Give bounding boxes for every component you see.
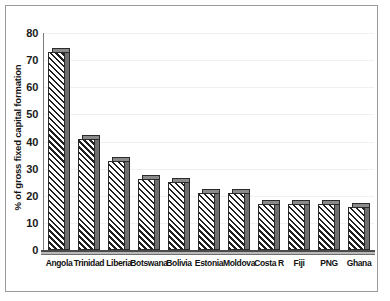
x-axis-tick-label: Ghana <box>338 258 380 268</box>
y-axis-title: % of gross fixed capital formation <box>12 43 23 233</box>
bar-front-face <box>348 207 365 250</box>
bar-top-face <box>232 189 250 194</box>
bar-slot <box>228 33 250 250</box>
bar-side-face <box>95 139 100 250</box>
bar-front-face <box>48 52 65 250</box>
bar[interactable] <box>228 189 250 250</box>
bar-front-face <box>258 204 275 250</box>
bar-slot <box>348 33 370 250</box>
bar-side-face <box>185 182 190 250</box>
bar[interactable] <box>168 178 190 250</box>
bar-side-face <box>365 207 370 250</box>
bar[interactable] <box>138 175 160 250</box>
bar[interactable] <box>78 135 100 250</box>
bar-side-face <box>335 204 340 250</box>
bar-top-face <box>202 189 220 194</box>
bar-top-face <box>112 157 130 162</box>
y-axis-tick-label: 0 <box>12 245 38 256</box>
bar-front-face <box>138 179 155 250</box>
bar-front-face <box>228 193 245 250</box>
bar-slot <box>168 33 190 250</box>
bar-side-face <box>305 204 310 250</box>
bar-front-face <box>78 139 95 250</box>
x-axis-base-plinth <box>41 252 375 255</box>
bar-slot <box>288 33 310 250</box>
bar[interactable] <box>258 200 280 250</box>
bar-side-face <box>155 179 160 250</box>
bar[interactable] <box>288 200 310 250</box>
bar-side-face <box>275 204 280 250</box>
bar-slot <box>138 33 160 250</box>
bar[interactable] <box>198 189 220 250</box>
bar-top-face <box>82 135 100 140</box>
bar-front-face <box>198 193 215 250</box>
bar-top-face <box>322 200 340 205</box>
bar-slot <box>108 33 130 250</box>
bar-front-face <box>168 182 185 250</box>
bar-front-face <box>288 204 305 250</box>
bar-top-face <box>352 203 370 208</box>
bar-side-face <box>65 52 70 250</box>
bar-side-face <box>125 161 130 251</box>
bar-top-face <box>172 178 190 183</box>
bar[interactable] <box>318 200 340 250</box>
bar-slot <box>318 33 340 250</box>
bar-slot <box>78 33 100 250</box>
bar[interactable] <box>348 203 370 250</box>
plot-area <box>44 33 374 250</box>
bar-top-face <box>292 200 310 205</box>
bar-side-face <box>215 193 220 250</box>
bar-top-face <box>142 175 160 180</box>
bar-top-face <box>52 48 70 53</box>
bar[interactable] <box>48 48 70 250</box>
bar-slot <box>48 33 70 250</box>
bar-front-face <box>318 204 335 250</box>
bar[interactable] <box>108 157 130 251</box>
bar-slot <box>198 33 220 250</box>
bar-side-face <box>245 193 250 250</box>
bar-chart-figure: 01020304050607080 % of gross fixed capit… <box>0 0 390 301</box>
bar-front-face <box>108 161 125 251</box>
bar-top-face <box>262 200 280 205</box>
y-axis-tick-label: 80 <box>12 28 38 39</box>
bar-slot <box>258 33 280 250</box>
